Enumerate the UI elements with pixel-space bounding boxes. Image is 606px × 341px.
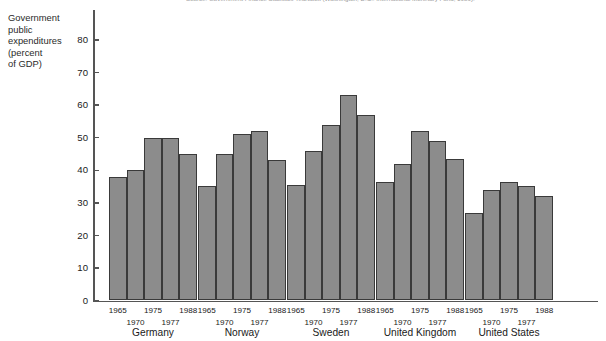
bar [340,95,358,300]
x-axis-year-label: 1965 [458,307,490,315]
x-axis-year-label: 1977 [244,319,276,327]
y-axis-tick [94,104,99,105]
y-axis-tick-label: 20 [60,231,88,241]
x-axis-year-label: 1988 [528,307,560,315]
bar [376,182,394,301]
y-axis-tick [94,72,99,73]
x-axis-year-label: 1975 [493,307,525,315]
x-axis-year-label: 1975 [226,307,258,315]
x-axis-year-label: 1965 [280,307,312,315]
bar [268,160,286,300]
x-axis-year-label: 1970 [119,319,151,327]
x-axis-year-label: 1977 [155,319,187,327]
bar [233,134,251,300]
x-axis-year-label: 1970 [297,319,329,327]
x-axis-year-label: 1965 [369,307,401,315]
bar [465,213,483,301]
bar [287,185,305,301]
y-axis-tick [94,267,99,268]
bar [500,182,518,301]
y-axis-tick [94,137,99,138]
bar [518,186,536,300]
y-axis-line [93,10,95,302]
bar [446,159,464,301]
y-axis-tick-label: 80 [60,35,88,45]
x-axis-year-label: 1975 [404,307,436,315]
x-axis-year-label: 1965 [102,307,134,315]
y-axis-tick-label: 50 [60,133,88,143]
y-axis-tick-label: 40 [60,165,88,175]
x-axis-year-label: 1965 [191,307,223,315]
bar [251,131,269,300]
x-axis-year-label: 1970 [208,319,240,327]
y-axis-tick [94,170,99,171]
bar [394,164,412,301]
y-axis-tick [94,202,99,203]
bar [483,190,501,301]
bar [429,141,447,301]
y-axis-tick-label: 70 [60,68,88,78]
y-axis-tick [94,300,99,301]
x-axis-year-label: 1975 [315,307,347,315]
y-axis-tick-label: 60 [60,100,88,110]
x-axis-group-label: United States [449,328,569,338]
bar [179,154,197,301]
bar [305,151,323,301]
bar [127,170,145,300]
bar [198,186,216,300]
x-axis-baseline [93,301,598,303]
y-axis-tick-label: 10 [60,263,88,273]
bar [109,177,127,301]
bar [162,138,180,301]
y-axis-tick-label: 0 [60,296,88,306]
x-axis-year-label: 1977 [422,319,454,327]
y-axis-tick [94,39,99,40]
x-axis-year-label: 1970 [386,319,418,327]
y-axis-tick-label: 30 [60,198,88,208]
bar [357,115,375,301]
bar-chart-plot-area: 01020304050607080 1965197019751977198819… [0,0,606,341]
x-axis-year-label: 1977 [333,319,365,327]
bar [411,131,429,300]
bar [144,138,162,301]
bar [322,125,340,301]
y-axis-tick [94,235,99,236]
x-axis-year-label: 1975 [137,307,169,315]
bar [216,154,234,301]
bar [535,196,553,300]
x-axis-year-label: 1977 [511,319,543,327]
x-axis-year-label: 1970 [475,319,507,327]
